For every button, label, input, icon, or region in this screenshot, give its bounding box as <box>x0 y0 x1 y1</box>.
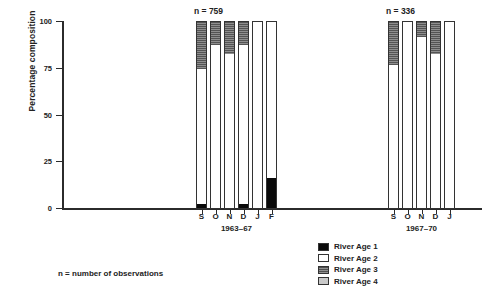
y-tick-label-50: 50 <box>18 111 52 120</box>
stacked-bar-chart: Percentage composition 1007550250 SONDJF… <box>0 0 494 298</box>
legend-label-age4: River Age 4 <box>334 277 378 286</box>
legend-label-age2: River Age 2 <box>334 254 378 263</box>
x-axis-month-label: J <box>442 212 458 221</box>
bar-segment-age2 <box>267 22 276 178</box>
y-tick-25 <box>56 161 63 162</box>
bar-segment-age3 <box>225 22 234 54</box>
bar-group-1963-67-O <box>210 21 221 209</box>
bar-segment-age2 <box>417 37 426 209</box>
bar-segment-age3 <box>431 22 440 54</box>
bar-segment-age2 <box>253 22 262 209</box>
bar-group-1967-70-O <box>402 21 413 209</box>
y-tick-label-75: 75 <box>18 64 52 73</box>
y-tick-50 <box>56 115 63 116</box>
legend-item-age3: River Age 3 <box>318 264 378 275</box>
bar-segment-age2 <box>445 22 454 209</box>
legend-swatch-age4-icon <box>318 277 329 285</box>
y-tick-100 <box>56 21 63 22</box>
bar-group-1967-70-J <box>444 21 455 209</box>
bar-segment-age2 <box>225 54 234 209</box>
bar-segment-age1 <box>267 178 276 209</box>
bar-segment-age3 <box>389 22 398 65</box>
period-label-group-1963-67: 1963–67 <box>197 224 277 233</box>
legend-item-age2: River Age 2 <box>318 253 378 264</box>
y-tick-label-25: 25 <box>18 157 52 166</box>
y-tick-label-0: 0 <box>18 204 52 213</box>
legend-label-age3: River Age 3 <box>334 265 378 274</box>
legend-label-age1: River Age 1 <box>334 242 378 251</box>
bar-segment-age3 <box>197 22 206 69</box>
n-observations-label-group-1967-70: n = 336 <box>386 6 415 16</box>
bar-group-1963-67-S <box>196 21 207 209</box>
y-tick-label-100: 100 <box>18 17 52 26</box>
bar-group-1963-67-J <box>252 21 263 209</box>
bar-segment-age3 <box>417 22 426 37</box>
n-observations-label-group-1963-67: n = 759 <box>194 6 223 16</box>
legend-swatch-age2-icon <box>318 254 329 262</box>
bar-group-1963-67-F <box>266 21 277 209</box>
period-label-group-1967-70: 1967–70 <box>382 224 462 233</box>
bar-segment-age2 <box>197 69 206 204</box>
legend-item-age1: River Age 1 <box>318 241 378 252</box>
bar-group-1963-67-N <box>224 21 235 209</box>
bar-group-1967-70-N <box>416 21 427 209</box>
legend-swatch-age1-icon <box>318 243 329 251</box>
bar-segment-age2 <box>431 54 440 209</box>
x-axis-month-label: F <box>264 212 280 221</box>
bar-segment-age2 <box>389 65 398 209</box>
y-axis-line <box>62 21 64 210</box>
bar-group-1967-70-S <box>388 21 399 209</box>
bar-segment-age2 <box>211 45 220 209</box>
y-tick-75 <box>56 68 63 69</box>
legend-item-age4: River Age 4 <box>318 276 378 287</box>
bar-group-1967-70-D <box>430 21 441 209</box>
bar-segment-age1 <box>197 204 206 209</box>
y-tick-0 <box>56 208 63 209</box>
bar-segment-age1 <box>239 204 248 209</box>
footnote-text: n = number of observations <box>58 269 163 278</box>
bar-group-1963-67-D <box>238 21 249 209</box>
bar-segment-age2 <box>403 22 412 209</box>
bar-segment-age2 <box>239 45 248 205</box>
bar-segment-age3 <box>239 22 248 45</box>
legend: River Age 1 River Age 2 River Age 3 Rive… <box>318 241 378 287</box>
bar-segment-age3 <box>211 22 220 45</box>
legend-swatch-age3-icon <box>318 266 329 274</box>
